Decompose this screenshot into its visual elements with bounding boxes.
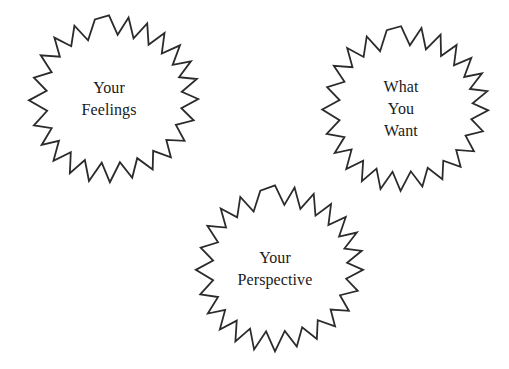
starburst-outline-icon bbox=[29, 15, 198, 182]
starburst-shape-your-feelings bbox=[18, 8, 200, 190]
starburst-outline-icon bbox=[322, 26, 488, 191]
starburst-your-perspective[interactable]: Your Perspective bbox=[186, 180, 364, 358]
starburst-outline-icon bbox=[196, 185, 363, 351]
starburst-what-you-want[interactable]: What You Want bbox=[312, 20, 490, 198]
starburst-diagram: Your Feelings What You Want Your Perspec… bbox=[0, 0, 509, 369]
starburst-your-feelings[interactable]: Your Feelings bbox=[18, 8, 200, 190]
starburst-shape-what-you-want bbox=[312, 20, 490, 198]
starburst-shape-your-perspective bbox=[186, 180, 364, 358]
